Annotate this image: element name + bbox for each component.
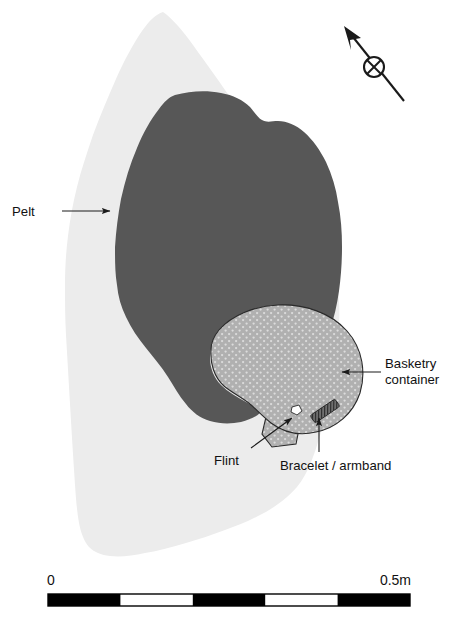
north-arrow	[344, 26, 404, 101]
scale-bar-segments	[48, 594, 410, 606]
grave-plan-figure: Pelt Basketry container Flint Bracelet /…	[0, 0, 449, 620]
scale-end-label: 0.5m	[380, 572, 411, 588]
plan-drawing-canvas: Pelt Basketry container Flint Bracelet /…	[0, 0, 449, 620]
scale-start-label: 0	[47, 572, 55, 588]
north-arrowhead	[344, 26, 361, 50]
flint-label: Flint	[214, 453, 239, 468]
bracelet-label: Bracelet / armband	[280, 458, 391, 473]
scale-bar: 0 0.5m	[47, 572, 411, 606]
basketry-label-line2: container	[385, 372, 440, 387]
basketry-label-line1: Basketry	[385, 356, 437, 371]
pelt-label: Pelt	[12, 204, 35, 219]
